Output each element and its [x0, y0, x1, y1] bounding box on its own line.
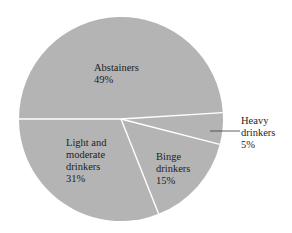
label-light-moderate-line2: moderate	[66, 149, 107, 161]
label-heavy-drinkers-line2: drinkers	[241, 127, 275, 139]
label-binge-drinkers-value: 15%	[156, 175, 190, 187]
label-abstainers-value: 49%	[94, 74, 139, 86]
label-light-moderate-value: 31%	[66, 173, 107, 185]
label-binge-drinkers: Binge drinkers 15%	[156, 151, 190, 187]
label-binge-drinkers-line1: Binge	[156, 151, 190, 163]
label-heavy-drinkers: Heavy drinkers 5%	[241, 115, 275, 151]
label-light-moderate-line3: drinkers	[66, 161, 107, 173]
label-light-moderate-line1: Light and	[66, 137, 107, 149]
label-heavy-drinkers-line1: Heavy	[241, 115, 275, 127]
label-binge-drinkers-line2: drinkers	[156, 163, 190, 175]
label-light-moderate-drinkers: Light and moderate drinkers 31%	[66, 137, 107, 185]
label-abstainers-name: Abstainers	[94, 62, 139, 74]
pie-slices	[19, 17, 223, 221]
label-heavy-drinkers-value: 5%	[241, 139, 275, 151]
label-abstainers: Abstainers 49%	[94, 62, 139, 86]
